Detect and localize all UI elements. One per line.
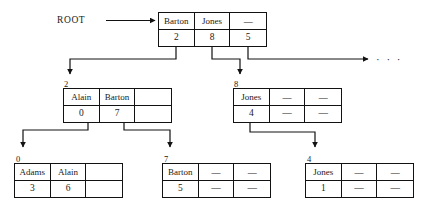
node-2-tag: 2 [64,80,68,89]
node-7-tag: 7 [164,155,168,164]
node-2-pointer-1: 7 [100,106,136,122]
node-7-pointers-row: 5 — — [163,181,270,197]
node-7-pointer-1: — [199,181,235,197]
node-2-keys-row: Alain Barton [64,89,171,106]
wire-root8-to-node8 [212,47,240,74]
node-2-pointers-row: 0 7 [64,106,171,122]
node-8-tag: 8 [234,80,238,89]
node-4[interactable]: Jones — — 1 — — [305,163,414,198]
continuation-ellipsis: · · · [376,54,403,65]
node-2-pointer-0: 0 [64,106,100,122]
node-2[interactable]: Alain Barton 0 7 [63,88,172,123]
wire-root5-to-ellipsis [248,47,368,59]
node-root-pointers-row: 2 8 5 [159,30,266,46]
node-4-key-1: — [342,164,378,180]
node-7-key-1: — [199,164,235,180]
wire-node2ptr0-to-leaf0 [23,120,88,147]
node-2-pointer-2 [135,106,171,122]
node-root-pointer-0: 2 [159,30,195,46]
node-8-key-0: Jones [234,89,270,105]
node-2-key-1: Barton [100,89,136,105]
node-0-pointer-0: 3 [15,181,51,197]
node-7-pointer-0: 5 [163,181,199,197]
node-2-key-0: Alain [64,89,100,105]
node-8-pointers-row: 4 — — [234,106,341,122]
wire-root2-to-node2 [70,47,176,74]
node-root-key-1: Jones [195,13,231,29]
node-4-pointer-0: 1 [306,181,342,197]
node-0-pointer-1: 6 [51,181,87,197]
node-4-tag: 4 [307,155,311,164]
node-4-key-0: Jones [306,164,342,180]
node-8[interactable]: Jones — — 4 — — [233,88,342,123]
diagram-canvas: ROOT Barton Jones — 2 8 5 2 Alain Barton… [0,0,423,214]
node-root-pointer-1: 8 [195,30,231,46]
node-0-pointers-row: 3 6 [15,181,122,197]
node-8-pointer-1: — [270,106,306,122]
node-7-key-2: — [234,164,270,180]
node-7[interactable]: Barton — — 5 — — [162,163,271,198]
wire-node2ptr7-to-leaf7 [124,120,170,147]
node-8-pointer-0: 4 [234,106,270,122]
node-8-pointer-2: — [305,106,341,122]
node-0-key-0: Adams [15,164,51,180]
node-root-key-2: — [230,13,266,29]
node-root-pointer-2: 5 [230,30,266,46]
node-7-keys-row: Barton — — [163,164,270,181]
wire-node8ptr4-to-leaf4 [250,120,315,147]
node-0-key-2 [86,164,122,180]
node-0-key-1: Alain [51,164,87,180]
node-2-key-2 [135,89,171,105]
node-7-key-0: Barton [163,164,199,180]
root-label: ROOT [57,15,85,25]
node-root[interactable]: Barton Jones — 2 8 5 [158,12,267,47]
node-4-pointers-row: 1 — — [306,181,413,197]
node-4-pointer-2: — [377,181,413,197]
node-0-keys-row: Adams Alain [15,164,122,181]
node-root-key-0: Barton [159,13,195,29]
node-4-pointer-1: — [342,181,378,197]
node-8-keys-row: Jones — — [234,89,341,106]
node-7-pointer-2: — [234,181,270,197]
node-0-tag: 0 [16,155,20,164]
node-8-key-2: — [305,89,341,105]
node-4-key-2: — [377,164,413,180]
node-0-pointer-2 [86,181,122,197]
node-root-keys-row: Barton Jones — [159,13,266,30]
node-8-key-1: — [270,89,306,105]
node-0[interactable]: Adams Alain 3 6 [14,163,123,198]
node-4-keys-row: Jones — — [306,164,413,181]
